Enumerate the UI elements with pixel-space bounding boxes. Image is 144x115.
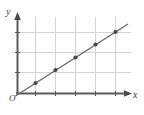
- y-axis-arrowhead-icon: [14, 12, 21, 20]
- y-axis-label: y: [6, 7, 10, 17]
- chart-figure: y x O: [0, 0, 144, 115]
- origin-label: O: [9, 94, 16, 103]
- data-point: [33, 81, 37, 85]
- x-axis-label: x: [133, 90, 137, 100]
- data-point: [53, 68, 57, 72]
- plot-area: [0, 0, 144, 115]
- horizontal-gridlines: [16, 33, 131, 73]
- trend-line: [16, 24, 129, 96]
- x-axis: [16, 90, 132, 97]
- data-point: [73, 55, 77, 59]
- x-axis-arrowhead-icon: [124, 90, 132, 97]
- data-point: [113, 30, 117, 34]
- data-point: [93, 42, 97, 46]
